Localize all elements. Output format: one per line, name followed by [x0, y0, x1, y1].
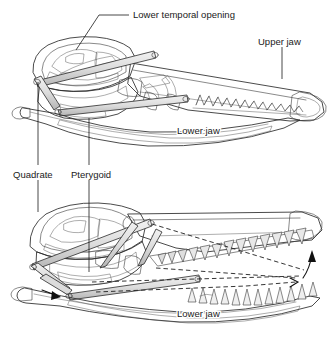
- label-lower-temporal-opening: Lower temporal opening: [133, 9, 235, 20]
- figure-root: Lower temporal opening Upper jaw Lower j…: [0, 0, 333, 341]
- snake-skull-diagram: Lower temporal opening Upper jaw Lower j…: [0, 0, 333, 341]
- label-upper-jaw: Upper jaw: [258, 36, 301, 47]
- label-quadrate: Quadrate: [13, 169, 53, 180]
- label-pterygoid: Pterygoid: [71, 169, 111, 180]
- label-lower-jaw-upper-panel: Lower jaw: [177, 125, 220, 136]
- label-lower-jaw-lower-panel: Lower jaw: [177, 308, 220, 319]
